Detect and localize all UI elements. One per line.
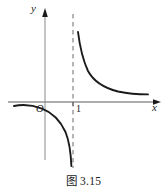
y-axis-label: y — [31, 3, 36, 14]
figure-caption: 图 3.15 — [0, 172, 167, 188]
figure-container: y x O 1 图 3.15 — [0, 0, 167, 193]
origin-label: O — [36, 104, 44, 115]
y-axis-arrow-icon — [42, 8, 48, 17]
hyperbola-plot — [0, 0, 167, 168]
tick-label-one: 1 — [76, 104, 81, 114]
curve-upper-right-branch — [78, 32, 148, 94]
x-axis-label: x — [152, 102, 157, 113]
